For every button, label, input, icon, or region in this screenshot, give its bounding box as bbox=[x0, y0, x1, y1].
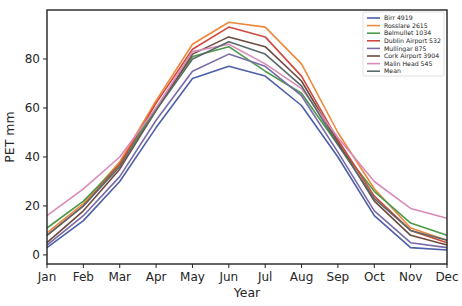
y-tick-label: 60 bbox=[25, 101, 40, 115]
x-tick-label: Jan bbox=[37, 270, 57, 284]
y-tick-label: 0 bbox=[32, 248, 40, 262]
x-tick-label: Jul bbox=[257, 270, 272, 284]
x-tick-label: Dec bbox=[435, 270, 458, 284]
legend-label: Malin Head 545 bbox=[384, 60, 432, 67]
series-line bbox=[47, 54, 447, 248]
legend-label: Rosslare 2615 bbox=[384, 22, 428, 29]
x-tick-label: Sep bbox=[327, 270, 350, 284]
legend-label: Birr 4919 bbox=[384, 14, 413, 21]
y-axis-label: PET mm bbox=[2, 111, 17, 162]
legend-label: Belmullet 1034 bbox=[384, 29, 431, 36]
y-tick-label: 20 bbox=[25, 199, 40, 213]
x-tick-label: Nov bbox=[399, 270, 422, 284]
line-chart: 020406080 JanFebMarAprMayJunJulAugSepOct… bbox=[0, 0, 462, 306]
x-tick-label: Feb bbox=[73, 270, 94, 284]
x-tick-label: Mar bbox=[108, 270, 131, 284]
x-tick-label: May bbox=[180, 270, 205, 284]
x-axis-label: Year bbox=[233, 285, 261, 300]
y-tick-label: 40 bbox=[25, 150, 40, 164]
legend: Birr 4919Rosslare 2615Belmullet 1034Dubl… bbox=[363, 12, 444, 76]
x-tick-label: Jun bbox=[218, 270, 238, 284]
y-tick-label: 80 bbox=[25, 52, 40, 66]
y-axis-ticks: 020406080 bbox=[25, 52, 47, 262]
x-axis-ticks: JanFebMarAprMayJunJulAugSepOctNovDec bbox=[37, 264, 459, 284]
x-tick-label: Aug bbox=[290, 270, 313, 284]
legend-label: Mean bbox=[384, 67, 401, 74]
x-tick-label: Oct bbox=[364, 270, 385, 284]
x-tick-label: Apr bbox=[146, 270, 167, 284]
